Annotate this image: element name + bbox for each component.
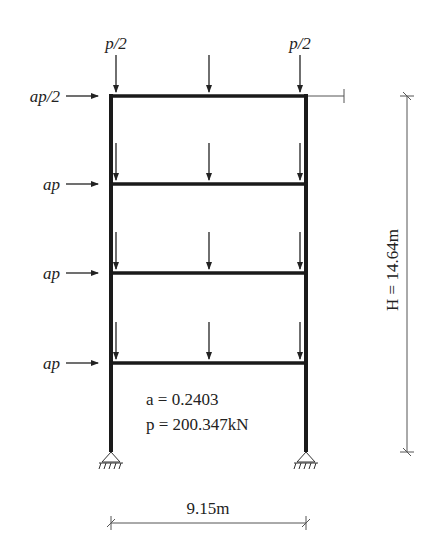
parameter-a: a = 0.2403 (146, 390, 218, 409)
height-dimension-label: H = 14.64m (383, 229, 402, 311)
width-dimension (107, 516, 310, 530)
pin-support-left-icon (99, 452, 123, 469)
lateral-load-label-2: ap (43, 264, 60, 283)
top-load-right-label: p/2 (288, 34, 311, 53)
parameter-p: p = 200.347kN (146, 415, 249, 434)
frame-diagram: p/2 p/2 ap/2 ap ap ap a = 0.2403 p = 200… (0, 0, 437, 556)
lateral-load-label-1: ap (43, 354, 60, 373)
width-dimension-label: 9.15m (187, 499, 230, 518)
vertical-load-arrows (116, 55, 300, 359)
pin-support-right-icon (294, 452, 318, 469)
top-load-left-label: p/2 (104, 34, 127, 53)
lateral-load-arrows (66, 96, 98, 363)
lateral-load-label-3: ap (43, 175, 60, 194)
lateral-load-label-roof: ap/2 (30, 87, 61, 106)
